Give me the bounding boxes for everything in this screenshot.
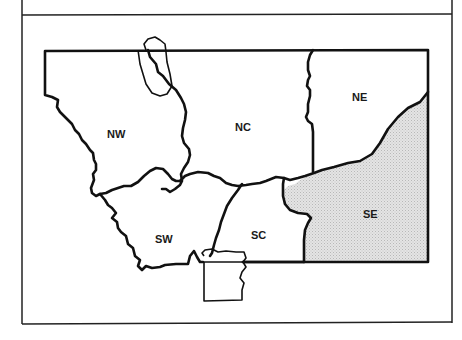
region-label-se: SE xyxy=(363,208,378,220)
map-figure: NW NC NE SW SC SE xyxy=(0,0,462,340)
lake-outline xyxy=(138,37,172,96)
boundary-nc-ne xyxy=(306,50,313,172)
region-label-nc: NC xyxy=(235,121,251,133)
region-label-nw: NW xyxy=(107,128,126,140)
region-label-sc: SC xyxy=(251,229,266,241)
boundary-sw-sc xyxy=(210,184,242,256)
region-label-ne: NE xyxy=(352,91,367,103)
region-map: NW NC NE SW SC SE xyxy=(0,0,462,340)
region-label-sw: SW xyxy=(155,233,173,245)
park-box xyxy=(202,249,246,301)
